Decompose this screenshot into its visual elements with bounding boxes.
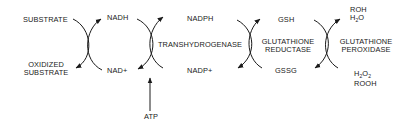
curve-nad-to-nadh [88, 19, 102, 70]
label-nadph: NADPH [187, 15, 213, 23]
label-glutathione-peroxidase: GLUTATHIONE PEROXIDASE [336, 38, 396, 54]
label-rooh: ROOH [354, 80, 377, 88]
label-oxidized-substrate: OXIDIZED SUBSTRATE [22, 61, 70, 77]
label-glutathione-reductase: GLUTATHIONE REDUCTASE [258, 38, 318, 54]
label-reductase-line2: REDUCTASE [258, 46, 318, 54]
label-water: H2O [350, 14, 367, 22]
label-gssg: GSSG [275, 67, 297, 75]
label-nadp-plus: NADP+ [187, 67, 212, 75]
curve-nadh-to-nadplus [137, 19, 153, 69]
label-transhydrogenase: TRANSHYDROGENASE [158, 41, 242, 49]
label-substrates: H2O2 ROOH [354, 70, 377, 88]
label-atp: ATP [144, 113, 158, 121]
label-peroxidase-line2: PEROXIDASE [336, 46, 396, 54]
label-substrate: SUBSTRATE [23, 16, 68, 24]
label-products: ROH H2O [350, 6, 367, 22]
label-gsh: GSH [278, 16, 294, 24]
label-nad-plus: NAD+ [107, 67, 127, 75]
label-nadh: NADH [107, 14, 128, 22]
label-oxidized-line2: SUBSTRATE [22, 69, 70, 77]
label-hydrogen-peroxide: H2O2 [354, 70, 377, 78]
curve-substrate-to-oxidized [73, 19, 89, 68]
